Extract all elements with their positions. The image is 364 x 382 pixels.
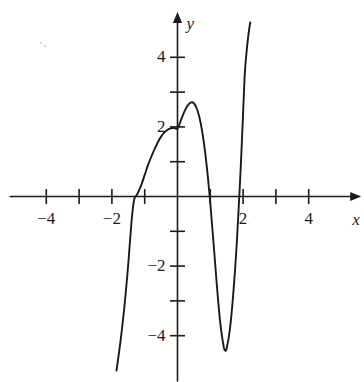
scan-speck bbox=[44, 45, 46, 47]
y-tick-label--2: −2 bbox=[134, 257, 166, 274]
y-axis-arrowhead bbox=[173, 12, 182, 23]
y-tick-label-4: 4 bbox=[134, 48, 166, 65]
x-axis-label: x bbox=[352, 211, 360, 228]
x-axis-arrowhead bbox=[350, 192, 361, 201]
scan-speck bbox=[40, 42, 42, 44]
x-tick-label--4: −4 bbox=[32, 210, 60, 227]
coordinate-plane bbox=[0, 0, 364, 382]
x-tick-label--2: −2 bbox=[98, 210, 126, 227]
x-tick-label-2: 2 bbox=[229, 210, 257, 227]
y-tick-label-2: 2 bbox=[134, 118, 166, 135]
x-tick-label-4: 4 bbox=[295, 210, 323, 227]
y-tick-label--4: −4 bbox=[134, 327, 166, 344]
graph-figure: −4−224 42−2−4 x y bbox=[0, 0, 364, 382]
axes-group bbox=[10, 12, 361, 381]
y-axis-label: y bbox=[187, 15, 195, 32]
